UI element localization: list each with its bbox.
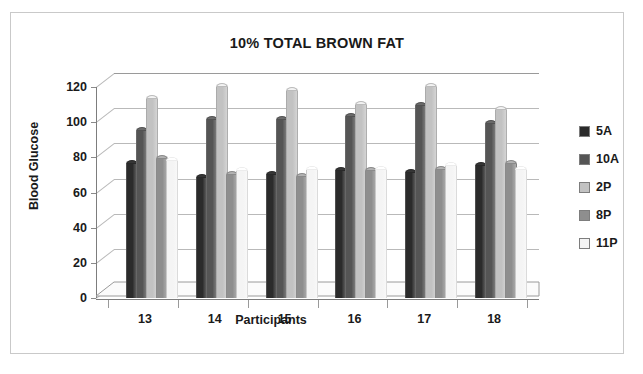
- bar-cap: [166, 157, 178, 161]
- bar-group: [465, 73, 535, 298]
- chart-frame: 10% TOTAL BROWN FAT Blood Glucose Partic…: [10, 12, 624, 354]
- legend-label: 8P: [596, 208, 611, 222]
- bar-cap: [375, 166, 387, 170]
- legend-item-8P[interactable]: 8P: [579, 201, 635, 229]
- y-axis-title: Blood Glucose: [27, 101, 41, 231]
- bar-cap: [216, 83, 228, 87]
- x-tick-mark: [108, 299, 109, 308]
- bar-cap: [505, 160, 517, 164]
- bar-11P-15[interactable]: [306, 170, 318, 298]
- x-tick-mark: [318, 299, 319, 308]
- bar-cap: [236, 167, 248, 171]
- legend-swatch-icon: [579, 154, 590, 165]
- bar-cap: [355, 101, 367, 105]
- bar-11P-13[interactable]: [166, 161, 178, 298]
- bar-11P-16[interactable]: [375, 170, 387, 298]
- bar-group: [256, 73, 326, 298]
- legend-item-2P[interactable]: 2P: [579, 173, 635, 201]
- bar-cap: [146, 95, 158, 99]
- chart-title: 10% TOTAL BROWN FAT: [11, 35, 623, 51]
- bars-layer: [96, 73, 539, 298]
- legend-label: 5A: [596, 124, 612, 138]
- legend-item-11P[interactable]: 11P: [579, 229, 635, 257]
- legend-swatch-icon: [579, 126, 590, 137]
- y-tick-label: 0: [80, 291, 87, 305]
- x-axis-line: [96, 299, 539, 300]
- bar-cap: [445, 162, 457, 166]
- bar-cap: [495, 106, 507, 110]
- bar-cap: [306, 166, 318, 170]
- x-tick-label-17: 17: [417, 312, 431, 326]
- legend-label: 10A: [596, 152, 619, 166]
- legend-item-10A[interactable]: 10A: [579, 145, 635, 173]
- x-tick-mark: [248, 299, 249, 308]
- y-tick-label: 80: [73, 150, 87, 164]
- bar-11P-17[interactable]: [445, 166, 457, 298]
- bar-cap: [515, 166, 527, 170]
- y-tick-label: 20: [73, 256, 87, 270]
- chart-legend: 5A10A2P8P11P: [579, 117, 635, 257]
- legend-item-5A[interactable]: 5A: [579, 117, 635, 145]
- legend-label: 2P: [596, 180, 611, 194]
- y-tick-label: 120: [66, 80, 87, 94]
- x-tick-mark: [527, 299, 528, 308]
- bar-group: [186, 73, 256, 298]
- legend-swatch-icon: [579, 210, 590, 221]
- legend-swatch-icon: [579, 238, 590, 249]
- x-tick-label-15: 15: [278, 312, 292, 326]
- y-tick-label: 40: [73, 221, 87, 235]
- x-tick-mark: [178, 299, 179, 308]
- bar-group: [326, 73, 396, 298]
- x-axis-title: Participants: [11, 313, 531, 327]
- y-tick-label: 100: [66, 115, 87, 129]
- y-tick-label: 60: [73, 186, 87, 200]
- x-tick-label-18: 18: [487, 312, 501, 326]
- x-tick-mark: [457, 299, 458, 308]
- bar-11P-18[interactable]: [515, 170, 527, 298]
- x-tick-label-13: 13: [138, 312, 152, 326]
- x-tick-label-14: 14: [208, 312, 222, 326]
- bar-group: [395, 73, 465, 298]
- x-tick-mark: [387, 299, 388, 308]
- legend-label: 11P: [596, 236, 618, 250]
- legend-swatch-icon: [579, 182, 590, 193]
- plot-area: 020406080100120 131415161718: [96, 73, 539, 298]
- x-tick-label-16: 16: [347, 312, 361, 326]
- bar-11P-14[interactable]: [236, 171, 248, 298]
- bar-cap: [286, 87, 298, 91]
- bar-cap: [425, 83, 437, 87]
- bar-group: [116, 73, 186, 298]
